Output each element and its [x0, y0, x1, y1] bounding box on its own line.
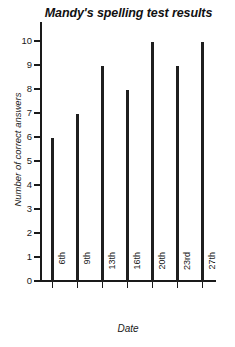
- x-axis-tick-label: 6th: [57, 252, 67, 292]
- bar: [201, 42, 204, 282]
- y-axis-tick: [34, 136, 40, 138]
- x-axis-tick-label: 20th: [157, 252, 167, 292]
- x-axis-tick-label: 9th: [82, 252, 92, 292]
- bar: [176, 66, 179, 282]
- x-axis-tick-label: 16th: [132, 252, 142, 292]
- y-axis-tick: [34, 40, 40, 42]
- y-axis-tick: [34, 184, 40, 186]
- bar: [126, 90, 129, 282]
- bar-chart: Mandy's spelling test results 0123456789…: [0, 0, 235, 347]
- y-axis-tick: [34, 112, 40, 114]
- x-axis-tick: [77, 282, 79, 288]
- bar: [51, 138, 54, 282]
- bar: [151, 42, 154, 282]
- y-axis-tick-label: 0: [8, 276, 32, 286]
- y-axis-tick: [34, 160, 40, 162]
- y-axis-tick: [34, 280, 40, 282]
- x-axis-tick-label: 23rd: [182, 252, 192, 292]
- x-axis-tick-label: 27th: [207, 252, 217, 292]
- x-axis-title: Date: [40, 323, 216, 334]
- x-axis-tick-label: 13th: [107, 252, 117, 292]
- x-axis-tick: [202, 282, 204, 288]
- y-axis-tick: [34, 232, 40, 234]
- y-axis-tick: [34, 88, 40, 90]
- x-axis-tick: [127, 282, 129, 288]
- chart-title: Mandy's spelling test results: [0, 6, 235, 20]
- x-axis-tick: [52, 282, 54, 288]
- bar: [101, 66, 104, 282]
- y-axis-tick: [34, 208, 40, 210]
- x-axis-tick: [177, 282, 179, 288]
- y-axis-tick: [34, 256, 40, 258]
- y-axis-tick: [34, 64, 40, 66]
- y-axis-line: [40, 22, 42, 282]
- y-axis-tick-label: 10: [8, 36, 32, 46]
- x-axis-tick: [152, 282, 154, 288]
- x-axis-tick: [102, 282, 104, 288]
- y-axis-title: Number of correct answers: [12, 60, 23, 240]
- y-axis-tick-label: 1: [8, 252, 32, 262]
- bar: [76, 114, 79, 282]
